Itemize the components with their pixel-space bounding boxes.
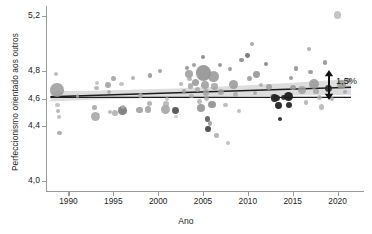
chart-figure: Perfeccionismo orientado aos outros Ano … [0, 0, 372, 234]
delta-arrow-icon [322, 70, 336, 100]
delta-annotation-label: 1,5% [336, 76, 357, 86]
regression-layer [0, 0, 372, 234]
confidence-band [50, 79, 351, 102]
